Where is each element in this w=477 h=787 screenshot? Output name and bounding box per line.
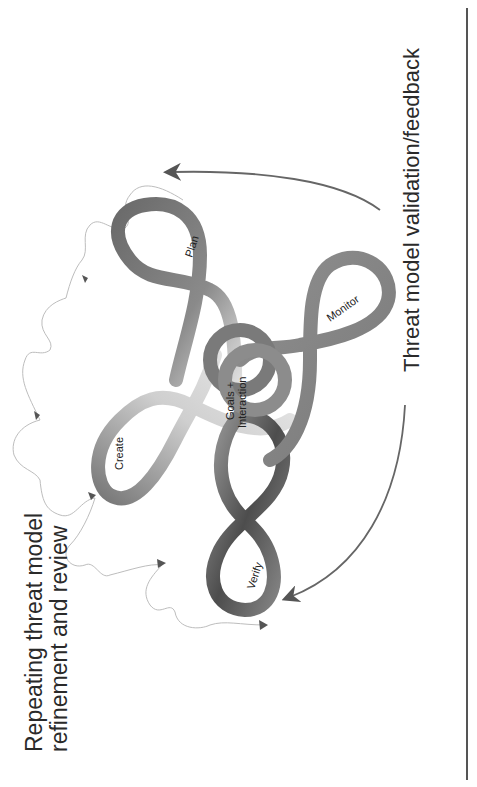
arrow-icon — [259, 620, 268, 630]
arrow-icon — [157, 559, 166, 568]
monitor-label: Monitor — [324, 293, 361, 324]
refinement-title-line2: refinement and review — [47, 513, 72, 752]
create-label: Create — [113, 437, 125, 470]
center-label-line1: Goals + — [224, 382, 236, 420]
refinement-title-line1: Repeating threat model — [22, 513, 47, 752]
refinement-title: Repeating threat model refinement and re… — [22, 513, 72, 752]
verify-label: Verify — [244, 560, 264, 590]
center-label-line2: Interaction — [236, 377, 248, 428]
page-edge-divider — [466, 8, 468, 780]
validation-title: Threat model validation/feedback — [400, 48, 424, 372]
arrow-icon — [82, 275, 88, 283]
